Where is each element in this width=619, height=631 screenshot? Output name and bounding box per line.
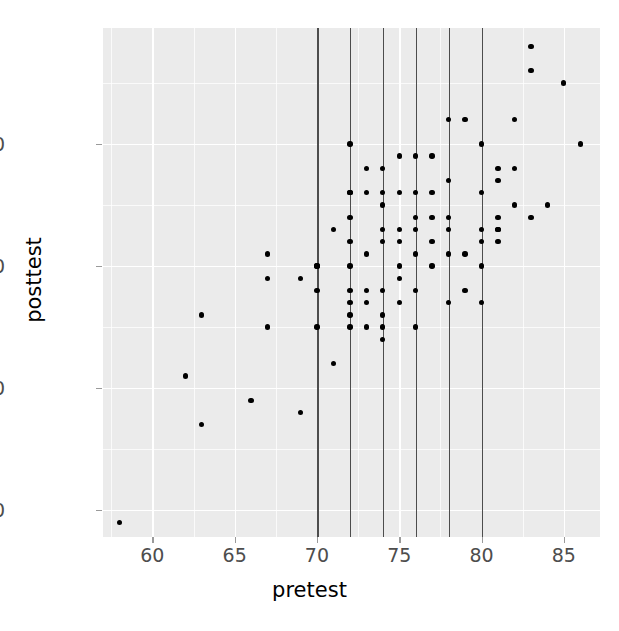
vertical-reference-line (317, 28, 319, 537)
data-point (397, 276, 402, 281)
data-point (446, 300, 451, 305)
data-point (347, 190, 352, 195)
gridline-major-horizontal (103, 388, 600, 389)
data-point (117, 520, 122, 525)
data-point (347, 324, 352, 329)
data-point (446, 178, 451, 183)
x-axis-tick-label: 70 (305, 546, 329, 565)
data-point (413, 215, 418, 220)
data-point (512, 117, 517, 122)
data-point (462, 117, 467, 122)
y-axis-tick-label: 80 (0, 257, 5, 276)
data-point (364, 324, 369, 329)
data-point (265, 324, 270, 329)
data-point (429, 215, 434, 220)
data-point (479, 141, 484, 146)
data-point (380, 227, 385, 232)
data-point (380, 239, 385, 244)
data-point (495, 227, 500, 232)
x-axis-tick-label: 75 (387, 546, 411, 565)
data-point (347, 300, 352, 305)
data-point (347, 263, 352, 268)
gridline-major-vertical (152, 28, 153, 537)
data-point (364, 166, 369, 171)
data-point (331, 361, 336, 366)
data-point (512, 166, 517, 171)
data-point (265, 276, 270, 281)
data-point (183, 373, 188, 378)
gridline-minor-horizontal (103, 205, 600, 206)
y-axis-tick-mark (96, 388, 102, 389)
x-axis-tick-mark (564, 537, 565, 543)
gridline-major-vertical (399, 28, 400, 537)
data-point (380, 288, 385, 293)
data-point (528, 215, 533, 220)
data-point (397, 263, 402, 268)
data-point (314, 324, 319, 329)
data-point (479, 300, 484, 305)
vertical-reference-line (449, 28, 451, 537)
data-point (429, 239, 434, 244)
data-point (413, 153, 418, 158)
data-point (314, 288, 319, 293)
data-point (380, 312, 385, 317)
data-point (413, 190, 418, 195)
data-point (413, 288, 418, 293)
data-point (446, 215, 451, 220)
data-point (199, 312, 204, 317)
plot-panel (103, 28, 600, 537)
data-point (364, 300, 369, 305)
x-axis-tick-mark (317, 537, 318, 543)
x-axis-tick-mark (235, 537, 236, 543)
x-axis-tick-label: 85 (552, 546, 576, 565)
y-axis-title: posttest (22, 200, 46, 360)
data-point (380, 324, 385, 329)
gridline-minor-vertical (358, 28, 359, 537)
data-point (545, 202, 550, 207)
data-point (364, 251, 369, 256)
data-point (479, 239, 484, 244)
y-axis-tick-mark (96, 510, 102, 511)
data-point (479, 190, 484, 195)
y-axis-tick-label: 60 (0, 501, 5, 520)
data-point (380, 190, 385, 195)
data-point (397, 153, 402, 158)
data-point (397, 300, 402, 305)
gridline-major-vertical (235, 28, 236, 537)
data-point (429, 190, 434, 195)
data-point (528, 68, 533, 73)
gridline-minor-vertical (276, 28, 277, 537)
data-point (364, 190, 369, 195)
data-point (298, 276, 303, 281)
gridline-minor-vertical (194, 28, 195, 537)
data-point (347, 215, 352, 220)
data-point (331, 227, 336, 232)
vertical-reference-line (350, 28, 352, 537)
data-point (429, 153, 434, 158)
data-point (479, 227, 484, 232)
data-point (413, 227, 418, 232)
vertical-reference-line (416, 28, 418, 537)
gridline-minor-horizontal (103, 83, 600, 84)
y-axis-tick-mark (96, 144, 102, 145)
x-axis-tick-mark (152, 537, 153, 543)
data-point (397, 190, 402, 195)
data-point (429, 263, 434, 268)
gridline-major-horizontal (103, 510, 600, 511)
data-point (462, 251, 467, 256)
data-point (199, 422, 204, 427)
vertical-reference-line (383, 28, 385, 537)
data-point (495, 178, 500, 183)
data-point (380, 202, 385, 207)
vertical-reference-line (482, 28, 484, 537)
data-point (347, 141, 352, 146)
y-axis-tick-label: 90 (0, 135, 5, 154)
data-point (495, 166, 500, 171)
data-point (578, 141, 583, 146)
data-point (446, 117, 451, 122)
data-point (265, 251, 270, 256)
data-point (298, 410, 303, 415)
data-point (314, 263, 319, 268)
data-point (397, 239, 402, 244)
data-point (528, 44, 533, 49)
